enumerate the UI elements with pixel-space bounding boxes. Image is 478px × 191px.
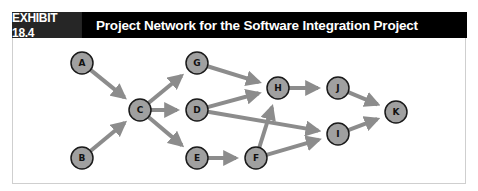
node-a: A — [71, 52, 93, 74]
edge-c-to-e — [148, 117, 181, 145]
node-h: H — [267, 77, 289, 99]
edge-b-to-c — [90, 123, 124, 151]
node-g: G — [186, 52, 208, 74]
edge-j-to-k — [348, 92, 377, 104]
node-label: K — [393, 107, 401, 117]
edge-d-to-i — [208, 112, 318, 131]
node-label: D — [193, 105, 200, 115]
node-label: I — [336, 129, 339, 139]
edge-i-to-k — [348, 119, 377, 130]
node-label: E — [194, 153, 200, 163]
network-nodes: ABCGDEFHJIK — [71, 52, 407, 169]
node-label: A — [79, 58, 86, 68]
node-label: C — [137, 105, 144, 115]
node-i: I — [327, 123, 349, 145]
edge-f-to-i — [267, 140, 319, 155]
node-label: B — [79, 153, 86, 163]
node-c: C — [129, 99, 151, 121]
project-network-diagram: ABCGDEFHJIK — [0, 0, 478, 191]
node-j: J — [327, 77, 349, 99]
node-b: B — [71, 147, 93, 169]
node-label: J — [335, 83, 339, 93]
edge-a-to-c — [91, 70, 125, 97]
node-e: E — [186, 147, 208, 169]
node-label: H — [274, 83, 282, 93]
node-label: F — [253, 153, 259, 163]
node-label: G — [193, 58, 200, 68]
node-k: K — [385, 101, 407, 123]
edge-d-to-h — [208, 93, 259, 107]
edge-g-to-h — [208, 66, 259, 82]
edge-c-to-g — [148, 76, 181, 103]
node-d: D — [186, 99, 208, 121]
node-f: F — [245, 147, 267, 169]
edge-f-to-h — [259, 107, 272, 147]
